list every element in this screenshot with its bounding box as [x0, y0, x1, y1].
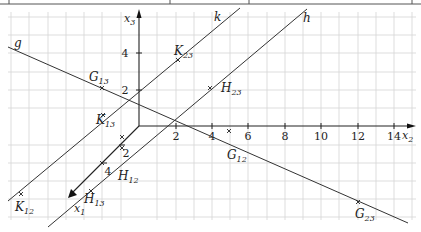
x3-arrow-icon	[137, 9, 142, 18]
x2-arrow-icon	[407, 124, 416, 129]
label-H12: H12	[117, 169, 139, 185]
svg-text:2: 2	[173, 130, 180, 143]
line-label-g: g	[14, 36, 22, 50]
label-K13: K13	[95, 113, 115, 129]
svg-text:10: 10	[314, 130, 328, 143]
label-H13: H13	[83, 192, 105, 208]
label-G23: G23	[355, 207, 375, 223]
svg-text:4: 4	[122, 47, 129, 60]
lines	[8, 8, 408, 227]
x3-axis-label: x3	[124, 12, 135, 27]
svg-text:12: 12	[351, 130, 365, 143]
svg-text:6: 6	[245, 130, 252, 143]
line-label-k: k	[214, 10, 221, 24]
label-H23: H23	[220, 81, 242, 97]
grid	[8, 12, 416, 220]
line-labels: g k h	[14, 10, 311, 50]
x1-arrow-icon	[68, 189, 77, 198]
line-label-h: h	[303, 11, 311, 25]
axes	[72, 14, 410, 193]
table-border-remnant	[0, 0, 421, 4]
tick-labels: 2 4 2 4 6 8 10 12 14 2 4	[105, 47, 402, 178]
coordinate-diagram: 2 4 2 4 6 8 10 12 14 2 4 x3 x2 x1 g k h	[0, 0, 421, 232]
svg-text:14: 14	[387, 130, 401, 143]
label-K12: K12	[14, 200, 34, 216]
svg-text:8: 8	[282, 130, 289, 143]
label-K23: K23	[173, 44, 193, 60]
axis-labels: x3 x2 x1	[74, 12, 413, 217]
point-markers	[19, 58, 360, 204]
line-g	[8, 47, 408, 223]
svg-text:2: 2	[122, 84, 129, 97]
